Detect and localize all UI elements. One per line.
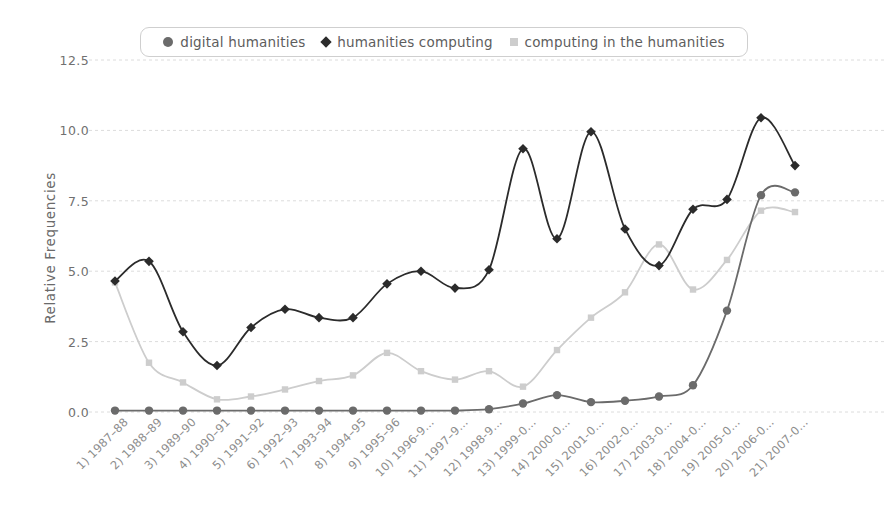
legend-label: digital humanities [180, 34, 305, 50]
data-point-square-marker [180, 379, 186, 385]
y-axis-tick-label: 10.0 [60, 123, 89, 138]
data-point-circle-marker [689, 381, 697, 389]
data-point-circle-marker [111, 406, 119, 414]
series-line [115, 207, 795, 400]
x-axis-ticks: 1) 1987–882) 1988–893) 1989–904) 1990–91… [95, 415, 885, 513]
legend-item-digital-humanities[interactable]: digital humanities [163, 34, 305, 50]
y-axis-tick-label: 7.5 [68, 193, 89, 208]
data-point-square-marker [622, 289, 628, 295]
data-point-circle-marker [519, 399, 527, 407]
data-point-diamond-marker [450, 283, 460, 293]
data-point-square-marker [316, 378, 322, 384]
data-point-circle-marker [179, 406, 187, 414]
legend-label: computing in the humanities [525, 34, 725, 50]
data-point-diamond-marker [178, 327, 188, 337]
data-point-square-marker [146, 360, 152, 366]
plot-svg [95, 60, 855, 412]
chart-legend: digital humanities humanities computing … [140, 27, 748, 57]
data-point-square-marker [350, 372, 356, 378]
y-axis-tick-label: 5.0 [68, 264, 89, 279]
data-point-diamond-marker [348, 313, 358, 323]
data-point-circle-marker [791, 188, 799, 196]
data-point-square-marker [690, 286, 696, 292]
data-point-circle-marker [485, 405, 493, 413]
data-point-circle-marker [723, 306, 731, 314]
data-point-circle-marker [281, 406, 289, 414]
data-point-diamond-marker [416, 266, 426, 276]
data-point-square-marker [656, 241, 662, 247]
data-point-circle-marker [587, 398, 595, 406]
data-point-circle-marker [247, 406, 255, 414]
data-point-square-marker [554, 347, 560, 353]
legend-label: humanities computing [337, 34, 493, 50]
data-point-diamond-marker [484, 265, 494, 275]
diamond-marker-icon [320, 36, 331, 47]
plot-area [95, 60, 855, 412]
legend-item-humanities-computing[interactable]: humanities computing [322, 34, 493, 50]
data-point-square-marker [724, 257, 730, 263]
data-point-diamond-marker [280, 304, 290, 314]
y-axis-tick-label: 0.0 [68, 405, 89, 420]
data-point-circle-marker [213, 406, 221, 414]
data-point-circle-marker [417, 406, 425, 414]
data-point-square-marker [384, 350, 390, 356]
data-point-diamond-marker [212, 361, 222, 371]
data-point-square-marker [486, 368, 492, 374]
data-point-diamond-marker [790, 161, 800, 171]
data-point-circle-marker [553, 391, 561, 399]
data-point-circle-marker [621, 397, 629, 405]
data-point-circle-marker [757, 191, 765, 199]
data-point-circle-marker [655, 392, 663, 400]
data-point-circle-marker [315, 406, 323, 414]
y-axis-tick-label: 2.5 [68, 334, 89, 349]
data-point-circle-marker [349, 406, 357, 414]
data-point-square-marker [214, 396, 220, 402]
data-point-square-marker [520, 383, 526, 389]
y-axis-tick-label: 12.5 [60, 53, 89, 68]
data-point-square-marker [418, 368, 424, 374]
data-point-square-marker [758, 207, 764, 213]
data-point-circle-marker [451, 406, 459, 414]
data-point-diamond-marker [654, 261, 664, 271]
y-axis-ticks: 0.02.55.07.510.012.5 [47, 60, 89, 412]
data-point-circle-marker [145, 406, 153, 414]
series-line [115, 117, 795, 365]
data-point-square-marker [282, 386, 288, 392]
data-point-square-marker [452, 376, 458, 382]
circle-marker-icon [163, 37, 173, 47]
legend-item-computing-in-the-humanities[interactable]: computing in the humanities [510, 34, 725, 50]
data-point-square-marker [248, 393, 254, 399]
data-point-diamond-marker [620, 224, 630, 234]
data-point-square-marker [792, 209, 798, 215]
series-computing-in-the-humanities [112, 207, 798, 402]
series-humanities-computing [110, 113, 800, 370]
data-point-circle-marker [383, 406, 391, 414]
square-marker-icon [510, 38, 518, 46]
data-point-diamond-marker [314, 313, 324, 323]
data-point-square-marker [588, 314, 594, 320]
